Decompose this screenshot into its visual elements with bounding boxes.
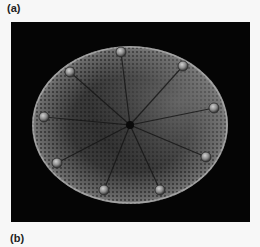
panel-label-a: (a) [7, 3, 20, 14]
diatom-micrograph-panel [11, 22, 250, 222]
panel-label-b: (b) [10, 233, 24, 244]
central-pore [126, 121, 134, 129]
diatom-valve-image [11, 22, 250, 222]
